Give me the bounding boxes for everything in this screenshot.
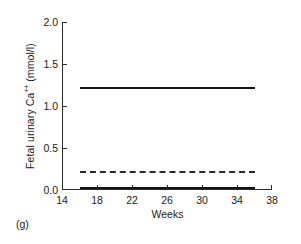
- y-axis-title-superscript: ++: [23, 85, 30, 93]
- x-axis-tick-mark: [271, 185, 272, 189]
- x-axis-tick-label: 26: [154, 194, 180, 206]
- figure-panel-g: Fetal urinary Ca++ (mmol/l) 0.00.51.01.5…: [0, 0, 301, 244]
- x-axis-tick-label: 34: [224, 194, 250, 206]
- y-axis-tick-label: 2.0: [28, 17, 58, 28]
- x-axis-tick-label: 30: [189, 194, 215, 206]
- panel-label: (g): [16, 218, 29, 230]
- x-axis-tick-label: 14: [49, 194, 75, 206]
- plot-area: [62, 22, 272, 190]
- y-axis-tick-mark: [63, 189, 67, 190]
- y-axis-tick-label: 1.0: [28, 101, 58, 112]
- y-axis-tick-mark: [63, 64, 67, 65]
- y-axis-tick-label: 0.5: [28, 143, 58, 154]
- x-axis-tick-label: 22: [119, 194, 145, 206]
- x-axis-tick-label: 38: [259, 194, 285, 206]
- y-axis-tick-label: 1.5: [28, 59, 58, 70]
- data-series-line: [80, 87, 255, 89]
- x-axis-title: Weeks: [60, 208, 275, 220]
- y-axis-tick-mark: [63, 106, 67, 107]
- y-axis-tick-mark: [63, 148, 67, 149]
- x-axis-tick-mark: [62, 185, 63, 189]
- y-axis-tick-mark: [63, 22, 67, 23]
- data-series-line: [80, 187, 255, 189]
- x-axis-tick-label: 18: [84, 194, 110, 206]
- data-series-line: [80, 171, 255, 173]
